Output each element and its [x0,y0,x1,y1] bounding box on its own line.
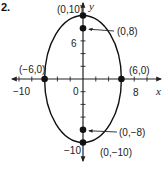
point-label: (−6,0) [19,64,45,75]
point-label: (0,8) [117,26,138,37]
tick-label: 0 [73,86,79,97]
ellipse-chart: 2. yx−1086−100(0,10)(0,−10)(−6,0)(6,0)(0… [0,0,166,170]
point-label: (0,10) [57,4,83,15]
tick-label: 6 [71,38,77,49]
tick-label: −10 [13,86,30,97]
point-focus [80,25,87,32]
tick-label: 8 [133,87,139,98]
point-label: (0,−10) [100,147,132,158]
point-label: (6,0) [129,65,150,76]
y-axis-label: y [88,0,94,12]
point-co-vertex [118,76,125,83]
point-label: (0,−8) [119,127,145,138]
x-axis-label: x [155,85,161,97]
point-focus [80,127,87,134]
point-co-vertex [41,76,48,83]
problem-number: 2. [1,1,10,13]
focus-arrow [89,29,114,31]
tick-label: −10 [64,145,81,156]
focus-arrow [89,131,117,132]
